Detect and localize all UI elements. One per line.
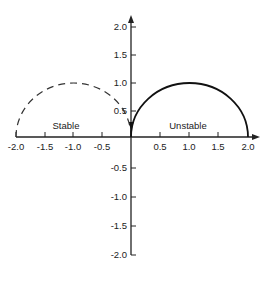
x-tick-label: -1.0 [65,141,81,152]
y-tick-label: 2.0 [114,21,127,32]
x-tick-label: 1.5 [211,141,224,152]
x-axis-arrow-icon [252,134,260,140]
stable-label: Stable [53,120,80,131]
x-tick-label: -0.5 [94,141,110,152]
y-tick-label: 1.0 [114,77,127,88]
x-tick-label: 0.5 [153,141,166,152]
y-tick-label: -2.0 [111,249,127,260]
unstable-label: Unstable [169,120,207,131]
x-ticks [16,132,218,137]
y-axis-arrow-icon [128,15,134,23]
x-tick-label: 2.0 [241,141,254,152]
x-tick-label: 1.0 [182,141,195,152]
y-tick-label: 0.5 [114,105,127,116]
stability-chart: -2.0 -1.5 -1.0 -0.5 0.5 1.0 1.5 2.0 2.0 … [0,0,268,295]
y-tick-label: -0.5 [111,162,127,173]
x-tick-label: -1.5 [37,141,53,152]
y-tick-label: 1.5 [114,49,127,60]
x-tick-label: -2.0 [8,141,24,152]
y-tick-label: -1.0 [111,191,127,202]
y-tick-label: -1.5 [111,220,127,231]
